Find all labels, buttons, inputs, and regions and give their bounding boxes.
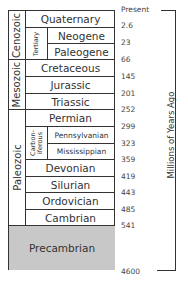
boundary-66: 66	[121, 55, 131, 64]
boundary-2-6: 2.6	[121, 21, 133, 30]
era-paleozoic: Paleozoic	[9, 109, 25, 225]
period-ordovician: Ordovician	[25, 192, 115, 209]
boundary-323: 323	[121, 139, 135, 148]
period-cambrian: Cambrian	[25, 209, 115, 225]
period-pennsylvanian: Pennsylvanian	[47, 126, 115, 143]
period-precambrian: Precambrian	[9, 225, 115, 270]
era-label: Mesozoic	[12, 62, 23, 108]
boundary-443: 443	[121, 188, 135, 197]
boundary-541: 541	[121, 221, 135, 230]
bracket-gap	[157, 8, 161, 12]
boundary-23: 23	[121, 38, 131, 47]
period-silurian: Silurian	[25, 176, 115, 192]
period-paleogene: Paleogene	[47, 43, 115, 59]
era-label: Paleozoic	[12, 144, 23, 190]
boundary-359: 359	[121, 155, 135, 164]
axis-label: Millions of Years Ago	[166, 92, 176, 179]
boundary-419: 419	[121, 172, 135, 181]
boundary-485: 485	[121, 205, 135, 214]
period-devonian: Devonian	[25, 159, 115, 176]
label-present: Present	[121, 5, 149, 14]
period-neogene: Neogene	[47, 27, 115, 43]
period-permian: Permian	[25, 109, 115, 126]
timescale-table: Cenozoic Mesozoic Paleozoic Quaternary T…	[8, 10, 115, 270]
period-mississippian: Mississippian	[47, 143, 115, 159]
boundary-252: 252	[121, 105, 135, 114]
subgroup-carboniferous: Carbon- iferous	[25, 126, 47, 159]
period-triassic: Triassic	[25, 93, 115, 109]
period-quaternary: Quaternary	[25, 11, 115, 27]
boundary-299: 299	[121, 122, 135, 131]
period-jurassic: Jurassic	[25, 76, 115, 93]
boundary-4600: 4600	[121, 267, 140, 276]
era-label: Cenozoic	[12, 12, 23, 57]
period-cretaceous: Cretaceous	[25, 59, 115, 76]
subgroup-tertiary: Tertiary	[25, 27, 47, 59]
era-cenozoic: Cenozoic	[9, 11, 25, 59]
boundary-145: 145	[121, 72, 135, 81]
boundary-201: 201	[121, 89, 135, 98]
era-mesozoic: Mesozoic	[9, 59, 25, 109]
